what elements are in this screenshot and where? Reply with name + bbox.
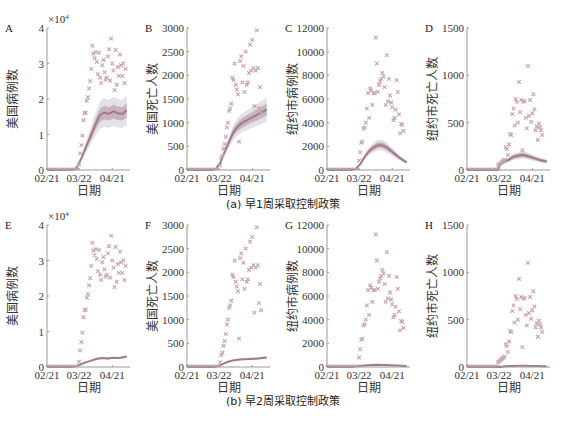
x-tick-label: 03/22 [487,172,512,184]
observed-point [85,296,89,300]
observed-point [243,90,247,94]
observed-point [366,91,370,95]
observed-point [120,271,124,275]
observed-point [98,273,102,277]
observed-point [357,159,361,163]
y-tick-label: 10000 [297,46,325,58]
x-tick-label: 02/21 [174,172,199,184]
panel-b: B05001000150020002500300002/2103/2204/21… [145,22,270,198]
observed-point [511,309,515,313]
y-tick-label: 2000 [302,337,325,349]
observed-point [390,302,394,306]
y-axis-label: 纽约市死亡人数 [425,57,440,141]
observed-point [96,269,100,273]
observed-point [117,74,121,78]
observed-point [107,48,111,52]
observed-point [396,90,400,94]
observed-point [93,253,97,257]
observed-point [397,310,401,314]
observed-point [225,323,229,327]
observed-point [533,305,537,309]
x-tick-label: 03/22 [347,172,372,184]
observed-point [363,323,367,327]
observed-point [229,299,233,303]
observed-point [386,297,390,301]
caption-b: (b) 早2周采取控制政策 [226,394,340,408]
observed-point [523,296,527,300]
observed-point [233,259,237,263]
x-tick-label: 02/21 [454,172,479,184]
observed-point [234,280,238,284]
y-axis-label: 纽约市病例数 [285,260,300,332]
y-tick-label: 12000 [297,22,325,34]
band-outer [187,97,267,170]
observed-point [82,316,86,320]
observed-point [120,74,124,78]
observed-point [89,67,93,71]
observed-point [516,121,520,125]
panel-letter: A [5,22,13,34]
observed-point [118,250,122,254]
x-tick-label: 02/21 [314,172,339,184]
observed-point [521,345,525,349]
observed-point [532,92,536,96]
observed-point [533,108,537,112]
observed-point [532,289,536,293]
y-tick-label: 10000 [297,243,325,255]
observed-point [243,287,247,291]
observed-point [398,132,402,136]
observed-point [115,280,119,284]
x-tick-label: 02/21 [34,369,59,381]
observed-point [102,58,106,62]
panel-h: H05001000150002/2103/2204/21日期纽约市死亡人数 [425,219,550,395]
panel-e: E01234×10402/2103/2204/21日期美国病例数 [5,210,130,395]
observed-point [383,282,387,286]
y-tick-label: 1500 [162,290,185,302]
observed-point [218,360,222,364]
observed-point [365,107,369,111]
observed-point [253,311,257,315]
observed-point [376,90,380,94]
observed-point [108,276,112,280]
observed-point [88,276,92,280]
observed-point [385,53,389,57]
observed-point [88,79,92,83]
observed-point [239,252,243,256]
observed-point [384,300,388,304]
observed-point [110,62,114,66]
observed-point [402,129,406,133]
observed-point [361,140,365,144]
observed-point [394,305,398,309]
observed-point [534,128,538,132]
observed-point [526,64,530,68]
y-axis-label: 美国病例数 [5,266,20,326]
observed-point [223,339,227,343]
observed-point [517,277,521,281]
model-line [327,145,407,170]
y-tick-label: 1500 [442,219,465,231]
observed-point [106,252,110,256]
observed-point [534,325,538,329]
observed-point [109,37,113,41]
observed-point [382,272,386,276]
observed-point [530,111,534,115]
observed-point [365,304,369,308]
observed-point [540,133,544,137]
observed-point [371,300,375,304]
observed-point [85,99,89,103]
observed-point [77,360,81,364]
observed-point [242,261,246,265]
y-tick-label: 1000 [442,69,465,81]
x-tick-label: 04/21 [520,369,545,381]
x-axis-label: 日期 [217,184,241,198]
x-tick-label: 03/22 [67,172,92,184]
observed-point [239,55,243,59]
observed-point [357,356,361,360]
x-tick-label: 03/22 [207,172,232,184]
observed-point [112,266,116,270]
observed-point [108,79,112,83]
observed-point [256,263,260,267]
observed-point [113,285,117,289]
panel-letter: B [145,22,152,34]
observed-point [229,102,233,106]
